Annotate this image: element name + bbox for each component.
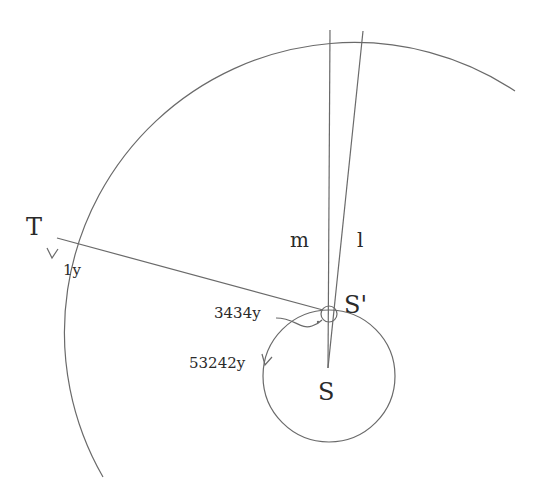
label-s-prime: S' bbox=[344, 291, 367, 319]
label-t: T bbox=[26, 213, 42, 241]
label-period-53242y: 53242y bbox=[189, 354, 246, 372]
sun-orbit-circle bbox=[263, 310, 395, 442]
orbit-arrow-icon bbox=[47, 248, 58, 258]
label-s: S bbox=[318, 378, 334, 406]
small-loop-circle bbox=[321, 306, 337, 322]
label-m: m bbox=[290, 228, 309, 252]
diagram-canvas: T 1y m l S' 3434y 53242y S bbox=[0, 0, 543, 492]
label-period-1y: 1y bbox=[63, 261, 82, 279]
line-m bbox=[328, 30, 330, 368]
leader-dot bbox=[317, 321, 319, 323]
large-orbit-arc bbox=[64, 42, 515, 477]
line-t-to-s-prime bbox=[57, 238, 323, 310]
leader-line bbox=[276, 318, 322, 327]
label-l: l bbox=[357, 228, 363, 252]
label-period-3434y: 3434y bbox=[214, 304, 261, 322]
sun-orbit-arrow-icon bbox=[262, 354, 272, 365]
orbit-diagram: T 1y m l S' 3434y 53242y S bbox=[0, 0, 543, 492]
